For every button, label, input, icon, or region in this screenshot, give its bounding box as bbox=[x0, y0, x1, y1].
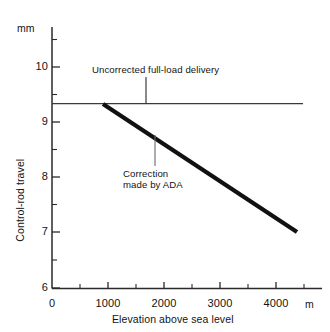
annotation-correction-made-by-ada: Correction made by ADA bbox=[123, 168, 183, 191]
x-tick-label-2000: 2000 bbox=[141, 297, 187, 310]
y-tick-label-9: 9 bbox=[26, 115, 48, 128]
x-tick-label-0: 0 bbox=[29, 297, 75, 310]
x-tick-label-3000: 3000 bbox=[197, 297, 243, 310]
y-tick-label-6: 6 bbox=[26, 281, 48, 294]
x-axis-title: Elevation above sea level bbox=[112, 313, 234, 325]
annotation-correction-line-1: Correction bbox=[123, 168, 183, 179]
y-axis-title: Control-rod travel bbox=[14, 135, 26, 265]
y-axis-unit-label: mm bbox=[17, 22, 35, 34]
x-tick-label-4000: 4000 bbox=[253, 297, 299, 310]
y-tick-label-7: 7 bbox=[26, 225, 48, 238]
y-axis-major-ticks bbox=[52, 67, 60, 288]
x-tick-label-1000: 1000 bbox=[85, 297, 131, 310]
y-tick-label-8: 8 bbox=[26, 170, 48, 183]
y-tick-label-10: 10 bbox=[26, 60, 48, 73]
annotation-correction-line-2: made by ADA bbox=[123, 179, 183, 190]
annotation-uncorrected-full-load-delivery: Uncorrected full-load delivery bbox=[92, 64, 219, 75]
chart-figure: mm m 10 9 8 7 6 0 1000 2000 3000 4000 Co… bbox=[0, 0, 330, 332]
x-axis-unit-label: m bbox=[305, 298, 314, 310]
chart-plot-area bbox=[0, 0, 330, 332]
